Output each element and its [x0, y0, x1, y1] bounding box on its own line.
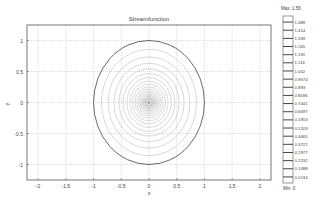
colorbar-level-label: 0.2977: [295, 150, 309, 155]
colorbar-level-label: 0.5953: [295, 117, 309, 122]
colorbar-level-label: 1.265: [295, 44, 306, 49]
colorbar-level-label: 0.4465: [295, 134, 309, 139]
colorbar-level-label: 0.2232: [295, 158, 309, 163]
y-tick-label: 0.5: [16, 69, 23, 75]
x-tick-label: 1.5: [229, 183, 236, 189]
x-tick-label: -1: [91, 183, 96, 189]
colorbar-level-label: 0.5209: [295, 126, 309, 131]
colorbar-level-label: 1.042: [295, 69, 306, 74]
x-tick-label: -0.5: [117, 183, 126, 189]
x-tick-label: 1: [203, 183, 206, 189]
x-tick-label: -2: [36, 183, 41, 189]
colorbar-level-label: 1.339: [295, 36, 306, 41]
x-axis-label: x: [148, 190, 151, 196]
colorbar-level-label: 0.3721: [295, 142, 309, 147]
colorbar-level-label: 0.893: [295, 85, 306, 90]
chart-title: Streamfunction: [129, 16, 169, 22]
colorbar-level-label: 1.116: [295, 60, 306, 65]
colorbar: [283, 16, 293, 183]
colorbar-level-label: 0.6697: [295, 109, 309, 114]
y-axis-label: y: [4, 102, 10, 105]
colorbar-level-label: 0.1488: [295, 166, 309, 171]
center-point: [148, 101, 151, 104]
y-tick-label: -1: [19, 162, 24, 168]
colorbar-level-label: 1.488: [295, 20, 306, 25]
colorbar-level-label: 0.8186: [295, 93, 309, 98]
x-tick-label: 0: [148, 183, 151, 189]
colorbar-level-label: 0.0744: [295, 175, 309, 180]
streamfunction-figure: Streamfunction -2-1.5-1-0.500.511.52 10.…: [0, 0, 322, 203]
x-tick-label: -1.5: [62, 183, 71, 189]
colorbar-level-label: 1.191: [295, 52, 306, 57]
y-tick-label: -0.5: [14, 131, 23, 137]
colorbar-level-label: 0.9674: [295, 77, 309, 82]
y-tick-label: 1: [20, 38, 23, 44]
colorbar-level-label: 1.414: [295, 28, 306, 33]
colorbar-min-label: Min: 0: [283, 186, 296, 191]
y-tick-label: 0: [20, 100, 23, 106]
x-tick-label: 0.5: [173, 183, 180, 189]
colorbar-max-label: Max: 1.56: [281, 6, 301, 11]
x-tick-label: 2: [259, 183, 262, 189]
colorbar-level-label: 0.7441: [295, 101, 309, 106]
